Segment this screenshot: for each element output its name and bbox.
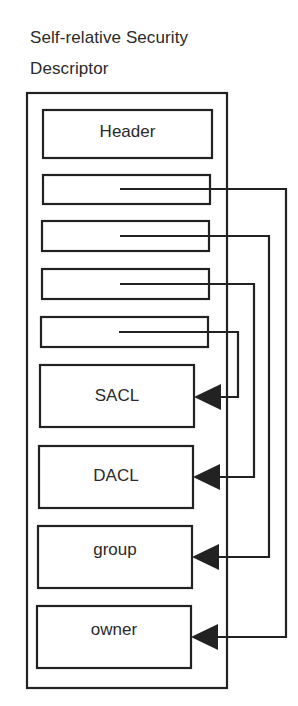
owner-label: owner xyxy=(37,620,191,640)
sacl-arrow-icon xyxy=(194,384,221,410)
group-arrow-icon xyxy=(192,544,219,570)
sacl-label: SACL xyxy=(40,386,194,406)
dacl-label: DACL xyxy=(39,466,193,486)
group-label: group xyxy=(38,540,192,560)
dacl-pointer-line xyxy=(120,284,254,477)
dacl-arrow-icon xyxy=(193,464,220,490)
owner-pointer-line xyxy=(120,189,286,637)
owner-arrow-icon xyxy=(191,624,218,650)
header-label: Header xyxy=(43,122,212,142)
descriptor-diagram xyxy=(0,0,298,706)
